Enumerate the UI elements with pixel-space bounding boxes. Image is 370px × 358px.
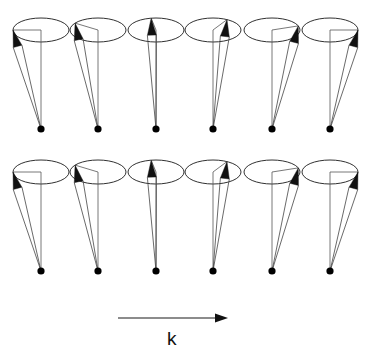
spin-origin-dot [268,125,275,132]
spin-origin-dot [94,125,101,132]
cone-wall-line [74,183,98,271]
spin-arrow-head-icon [74,165,83,183]
spin-cone [70,18,126,133]
spin-arrow-head-icon [349,172,358,190]
spin-arrow-head-icon [220,162,229,179]
cone-wall-line [213,36,220,129]
spin-origin-dot [326,267,333,274]
cone-wall-line [22,45,41,129]
spin-arrow-head-icon [13,172,22,190]
spin-origin-dot [268,267,275,274]
k-axis-group [118,314,228,323]
cone-wall-line [83,39,98,129]
spin-arrow-head-icon [290,26,299,44]
orbit-radius-line [272,168,298,172]
spin-cone [185,18,241,133]
spin-origin-dot [326,125,333,132]
spin-cone [13,160,69,275]
cone-wall-line [213,178,220,271]
cone-wall-line [13,190,41,271]
orbit-radius-line [272,26,298,30]
cone-wall-line [272,185,298,271]
cone-wall-line [147,177,156,271]
cone-wall-line [147,35,156,129]
cone-wall-line [13,48,41,129]
spin-origin-dot [37,267,44,274]
figure-canvas: k [0,0,370,358]
spin-arrow-head-icon [220,20,229,37]
cone-wall-line [330,45,349,129]
cone-wall-line [330,48,358,129]
spin-origin-dot [152,125,159,132]
spin-group [13,18,358,275]
spin-cone [13,18,69,133]
cone-wall-line [83,181,98,271]
spin-arrow-head-icon [290,168,299,186]
k-arrow-head-icon [215,314,228,323]
spin-precession-diagram [0,0,370,358]
spin-arrow-head-icon [74,23,83,41]
orbit-radius-line [75,23,98,30]
spin-arrow-head-icon [349,30,358,48]
spin-origin-dot [152,267,159,274]
cone-wall-line [272,41,290,129]
spin-cone [128,160,184,275]
cone-wall-line [272,183,290,271]
spin-cone [128,18,184,133]
cone-wall-line [330,187,349,271]
cone-wall-line [213,179,229,271]
spin-cone [244,160,300,275]
cone-wall-line [330,190,358,271]
spin-cone [302,160,358,275]
spin-cone [185,160,241,275]
cone-wall-line [213,37,229,129]
cone-wall-line [74,41,98,129]
spin-origin-dot [209,267,216,274]
spin-origin-dot [94,267,101,274]
spin-cone [70,160,126,275]
spin-origin-dot [209,125,216,132]
spin-origin-dot [37,125,44,132]
orbit-radius-line [75,165,98,172]
cone-wall-line [22,187,41,271]
spin-cone [302,18,358,133]
spin-arrow-head-icon [13,30,22,48]
spin-cone [244,18,300,133]
cone-wall-line [272,43,298,129]
